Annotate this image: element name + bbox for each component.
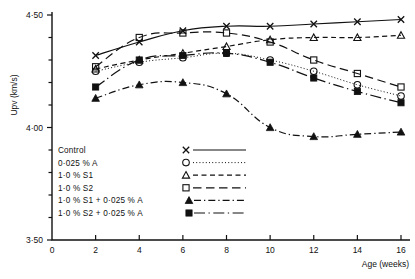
y-tick-label: 3·50 bbox=[26, 235, 43, 245]
plot-area bbox=[92, 16, 405, 139]
axes-group: 3·504·004·500246810121416Upv (km/s)Age (… bbox=[9, 10, 410, 269]
x-tick-label: 14 bbox=[353, 245, 363, 255]
data-point-cross bbox=[136, 39, 142, 45]
x-axis-title: Age (weeks) bbox=[362, 259, 409, 269]
data-point-open-triangle bbox=[182, 172, 189, 179]
y-axis-title: Upv (km/s) bbox=[9, 74, 19, 115]
marker-cross bbox=[183, 147, 189, 153]
marker-filled-square bbox=[136, 57, 142, 63]
marker-filled-triangle bbox=[266, 124, 274, 131]
legend-item-label: 1·0 % S1 + 0·025 % A bbox=[58, 196, 143, 205]
data-point-filled-square bbox=[311, 75, 317, 81]
data-point-open-triangle bbox=[223, 43, 230, 50]
data-point-filled-triangle bbox=[223, 90, 231, 97]
data-point-open-circle bbox=[398, 93, 405, 100]
data-point-open-circle bbox=[354, 81, 361, 88]
legend-item-3[interactable]: 1·0 % S2 bbox=[58, 184, 246, 193]
legend-item-0[interactable]: Control bbox=[58, 146, 246, 155]
data-point-filled-triangle bbox=[266, 124, 274, 131]
x-tick-label: 16 bbox=[396, 245, 406, 255]
y-tick-label: 4·00 bbox=[26, 123, 43, 133]
data-point-filled-square bbox=[136, 57, 142, 63]
legend: Control0·025 % A1·0 % S11·0 % S21·0 % S1… bbox=[58, 146, 246, 218]
marker-filled-square bbox=[311, 75, 317, 81]
data-point-open-square bbox=[183, 185, 189, 191]
x-tick-label: 4 bbox=[137, 245, 142, 255]
x-tick-label: 10 bbox=[265, 245, 275, 255]
legend-item-4[interactable]: 1·0 % S1 + 0·025 % A bbox=[58, 196, 246, 205]
x-tick-label: 12 bbox=[309, 245, 319, 255]
legend-item-label: 1·0 % S2 bbox=[58, 184, 94, 193]
data-point-filled-square bbox=[398, 100, 404, 106]
data-point-filled-square bbox=[180, 52, 186, 58]
marker-open-circle bbox=[183, 159, 190, 166]
data-point-open-square bbox=[398, 84, 404, 90]
x-tick-label: 8 bbox=[224, 245, 229, 255]
data-point-filled-square bbox=[223, 50, 229, 56]
marker-filled-square bbox=[267, 59, 273, 65]
marker-filled-triangle bbox=[223, 90, 231, 97]
data-point-open-circle bbox=[183, 159, 190, 166]
legend-item-5[interactable]: 1·0 % S2 + 0·025 % A bbox=[58, 209, 246, 218]
marker-filled-square bbox=[186, 210, 192, 216]
marker-filled-square bbox=[354, 88, 360, 94]
x-tick-label: 6 bbox=[181, 245, 186, 255]
legend-item-1[interactable]: 0·025 % A bbox=[58, 159, 246, 168]
marker-filled-triangle bbox=[185, 197, 193, 204]
legend-item-label: 1·0 % S2 + 0·025 % A bbox=[58, 209, 143, 218]
legend-item-label: 0·025 % A bbox=[58, 159, 98, 168]
marker-open-triangle bbox=[223, 43, 230, 50]
data-point-cross bbox=[92, 52, 98, 58]
marker-filled-square bbox=[93, 84, 99, 90]
data-point-filled-triangle bbox=[185, 197, 193, 204]
x-tick-label: 0 bbox=[50, 245, 55, 255]
marker-filled-square bbox=[223, 50, 229, 56]
marker-open-triangle bbox=[182, 172, 189, 179]
chart-figure: 3·504·004·500246810121416Upv (km/s)Age (… bbox=[0, 0, 415, 279]
legend-item-2[interactable]: 1·0 % S1 bbox=[58, 171, 246, 180]
marker-open-triangle bbox=[397, 32, 404, 39]
series-5 bbox=[93, 50, 405, 106]
data-point-filled-square bbox=[93, 84, 99, 90]
upv-age-line-chart: 3·504·004·500246810121416Upv (km/s)Age (… bbox=[0, 0, 415, 279]
marker-open-square bbox=[398, 84, 404, 90]
data-point-filled-square bbox=[267, 59, 273, 65]
x-tick-label: 2 bbox=[93, 245, 98, 255]
data-point-open-square bbox=[311, 57, 317, 63]
data-point-filled-square bbox=[354, 88, 360, 94]
marker-filled-square bbox=[180, 52, 186, 58]
data-point-filled-square bbox=[186, 210, 192, 216]
legend-item-label: 1·0 % S1 bbox=[58, 171, 94, 180]
data-point-open-square bbox=[223, 30, 229, 36]
marker-cross bbox=[136, 39, 142, 45]
marker-open-circle bbox=[354, 81, 361, 88]
marker-open-square bbox=[183, 185, 189, 191]
data-point-open-triangle bbox=[397, 32, 404, 39]
marker-open-square bbox=[223, 30, 229, 36]
marker-filled-square bbox=[398, 100, 404, 106]
marker-open-square bbox=[311, 57, 317, 63]
y-tick-label: 4·50 bbox=[26, 10, 43, 20]
marker-open-circle bbox=[398, 93, 405, 100]
marker-cross bbox=[92, 52, 98, 58]
legend-item-label: Control bbox=[58, 146, 86, 155]
data-point-cross bbox=[183, 147, 189, 153]
